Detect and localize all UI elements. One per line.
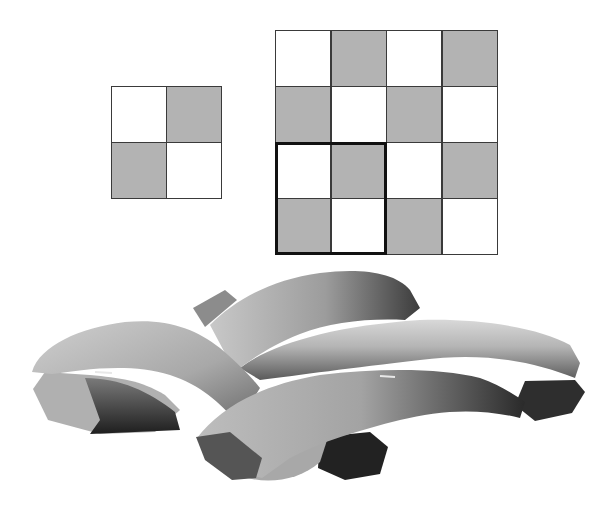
grid-cell-white <box>276 31 330 86</box>
grid-cell-white <box>332 87 386 142</box>
yarn-seam-highlight <box>380 376 395 377</box>
yarn-end-right-dark <box>515 380 585 421</box>
grid-cell-white <box>443 199 497 254</box>
grid-cell-white <box>387 143 441 198</box>
unit-cell-grid-2x2 <box>111 86 222 199</box>
grid-cell-shaded <box>332 143 386 198</box>
grid-cell-white <box>112 87 166 142</box>
grid-cell-white <box>387 31 441 86</box>
grid-cell-shaded <box>112 143 166 198</box>
woven-yarns-3d-illustration <box>0 255 613 518</box>
grid-cell-shaded <box>276 87 330 142</box>
grid-cell-shaded <box>443 143 497 198</box>
grid-cell-shaded <box>332 31 386 86</box>
grid-cell-white <box>443 87 497 142</box>
grid-cell-shaded <box>443 31 497 86</box>
grid-cell-white <box>167 143 221 198</box>
grid-cell-shaded <box>387 199 441 254</box>
yarn-seam-highlight <box>95 372 112 373</box>
grid-cell-shaded <box>167 87 221 142</box>
grid-cell-white <box>276 143 330 198</box>
grid-cell-shaded <box>276 199 330 254</box>
grid-cell-shaded <box>387 87 441 142</box>
repeat-pattern-grid-4x4 <box>275 30 498 255</box>
grid-cell-white <box>332 199 386 254</box>
